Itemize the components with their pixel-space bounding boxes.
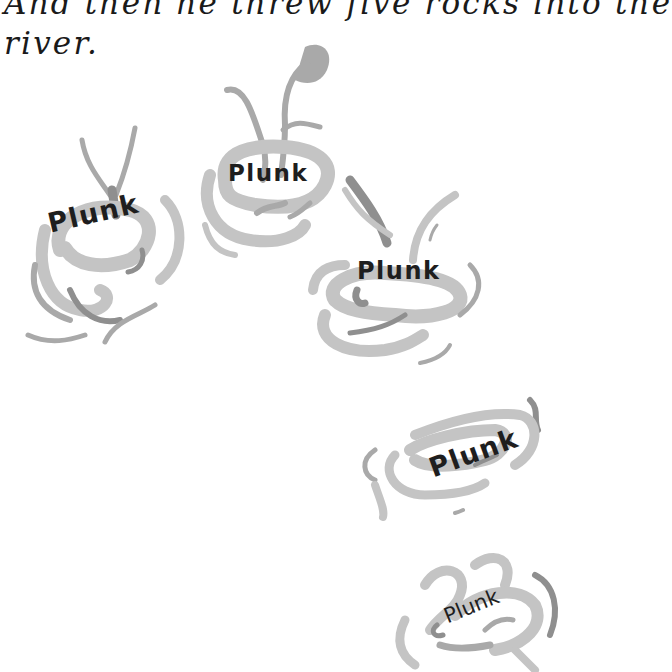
splash-illustration-4: Plunk — [355, 395, 568, 525]
plunk-label-3: Plunk — [357, 257, 440, 285]
story-line-2: river. — [4, 25, 99, 61]
water-splash-icon — [20, 120, 200, 340]
splash-illustration-3: Plunk — [295, 165, 495, 375]
splash-illustration-5: Plunk — [385, 540, 568, 672]
splash-illustration-1: Plunk — [20, 120, 200, 340]
story-line-1: And then he threw five rocks into the — [4, 0, 672, 21]
